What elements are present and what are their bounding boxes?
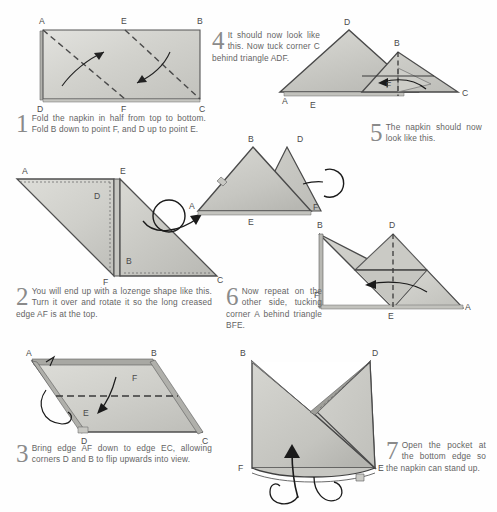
- step-number-2: 2: [16, 287, 30, 307]
- vertex-label-B: B: [248, 134, 254, 144]
- diagram-step-3: A B F E D C: [6, 344, 231, 454]
- vertex-label-D: D: [344, 17, 351, 27]
- vertex-label-F: F: [238, 463, 244, 473]
- step-text-5: The napkin should now look like this.: [386, 122, 482, 143]
- vertex-label-F: F: [386, 80, 392, 90]
- vertex-label-E: E: [120, 166, 126, 176]
- instruction-sheet: A E B D F C 1Fold the napkin in half fro…: [0, 0, 497, 512]
- napkin-rectangle: [43, 30, 200, 99]
- vertex-label-D: D: [297, 134, 304, 144]
- step-number-1: 1: [16, 114, 30, 134]
- step-number-6: 6: [226, 287, 240, 307]
- step-number-7: 7: [386, 441, 400, 461]
- vertex-label-D: D: [94, 191, 101, 201]
- vertex-label-A: A: [465, 302, 471, 312]
- step-text-6: Now repeat on the other side, tucking co…: [226, 286, 322, 330]
- caption-step-1: 1Fold the napkin in half from top to bot…: [16, 113, 206, 136]
- step-number-4: 4: [212, 31, 226, 51]
- step-number-5: 5: [370, 123, 384, 143]
- vertex-label-A: A: [22, 166, 28, 176]
- caption-step-7: 7Open the pocket at the bottom edge so t…: [386, 440, 486, 474]
- vertex-label-B: B: [197, 16, 203, 26]
- vertex-label-B: B: [240, 348, 246, 358]
- vertex-label-D: D: [372, 348, 379, 358]
- diagram-step-6: B D F E A: [305, 212, 495, 320]
- step-text-3: Bring edge AF down to edge EC, allowing …: [32, 443, 212, 464]
- caption-step-5: 5The napkin should now look like this.: [370, 122, 482, 145]
- diagram-step-7: B D F E: [232, 340, 402, 510]
- vertex-label-B: B: [317, 220, 323, 230]
- triangle-D-top: [355, 234, 427, 270]
- vertex-label-E: E: [121, 16, 127, 26]
- caption-step-3: 3Bring edge AF down to edge EC, allowing…: [16, 443, 212, 466]
- vertex-label-F: F: [313, 202, 319, 212]
- vertex-label-E: E: [378, 463, 384, 473]
- vertex-label-E: E: [310, 100, 316, 110]
- vertex-label-E: E: [83, 408, 89, 418]
- step-text-2: You will end up with a lozenge shape lik…: [16, 286, 212, 319]
- step-number-3: 3: [16, 444, 30, 464]
- vertex-label-A: A: [282, 96, 288, 106]
- vertex-label-E: E: [248, 217, 254, 227]
- vertex-label-F: F: [132, 373, 138, 383]
- diagram-step-4-label-a: A: [278, 92, 302, 110]
- vertex-label-D: D: [389, 220, 396, 230]
- vertex-label-E: E: [388, 311, 394, 321]
- vertex-label-C: C: [462, 88, 469, 98]
- diagram-step-4: D B E F C: [286, 16, 496, 116]
- caption-step-6: 6Now repeat on the other side, tucking c…: [226, 286, 322, 332]
- vertex-label-A: A: [189, 201, 195, 211]
- vertex-label-C: C: [217, 275, 224, 285]
- caption-step-2: 2You will end up with a lozenge shape li…: [16, 286, 212, 320]
- vertex-label-B: B: [126, 256, 132, 266]
- step-text-7: Open the pocket at the bottom edge so th…: [386, 440, 486, 473]
- step-text-1: Fold the napkin in half from top to bott…: [32, 113, 206, 134]
- vertex-label-A: A: [39, 16, 45, 26]
- vertex-label-A: A: [26, 348, 32, 358]
- vertex-label-B: B: [151, 348, 157, 358]
- vertex-label-B: B: [394, 38, 400, 48]
- diagram-step-1: A E B D F C: [20, 14, 220, 114]
